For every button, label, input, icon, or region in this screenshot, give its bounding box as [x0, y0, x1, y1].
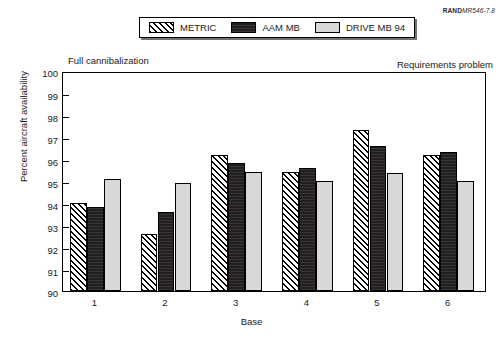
y-axis-tick-label: 100 [42, 68, 58, 79]
bar-metric-base-4 [282, 172, 299, 291]
bar-metric-base-2 [141, 234, 158, 291]
y-axis-tick: 94 [63, 205, 69, 206]
legend-swatch-drive-mb-94 [315, 22, 340, 33]
bar-aam-base-3 [228, 163, 245, 291]
y-axis-tick: 97 [63, 139, 69, 140]
plot-area: 90919293949596979899100 [62, 72, 486, 292]
x-axis-tick-label: 4 [304, 297, 309, 308]
bar-metric-base-3 [211, 155, 228, 291]
y-axis-tick: 96 [63, 161, 69, 162]
y-axis-tick-label: 95 [47, 179, 58, 190]
legend-label-aam-mb: AAM MB [262, 22, 299, 33]
legend-item-aam-mb: AAM MB [231, 22, 299, 33]
legend-swatch-aam-mb [231, 22, 256, 33]
bar-drive-base-1 [104, 179, 121, 291]
bar-aam-base-1 [87, 207, 104, 291]
y-axis-tick: 93 [63, 227, 69, 228]
y-axis-tick: 98 [63, 117, 69, 118]
plot-inner: 90919293949596979899100 [63, 73, 485, 291]
y-axis-tick-label: 93 [47, 223, 58, 234]
x-axis-tick-label: 2 [162, 297, 167, 308]
legend-item-drive-mb-94: DRIVE MB 94 [315, 22, 405, 33]
bar-aam-base-2 [158, 212, 175, 291]
source-prefix: RAND [443, 7, 462, 14]
y-axis-tick-label: 98 [47, 113, 58, 124]
y-axis-tick-label: 97 [47, 135, 58, 146]
bar-drive-base-2 [175, 183, 192, 291]
bar-drive-base-3 [245, 172, 262, 291]
x-axis-tick-label: 1 [92, 297, 97, 308]
bar-drive-base-5 [387, 173, 404, 291]
x-axis-tick-label: 3 [233, 297, 238, 308]
legend-label-drive-mb-94: DRIVE MB 94 [346, 22, 405, 33]
source-identifier: RANDMR546-7.8 [443, 7, 495, 14]
y-axis-title: Percent aircraft availability [18, 71, 29, 182]
legend-item-metric: METRIC [149, 22, 216, 33]
y-axis-tick: 95 [63, 183, 69, 184]
bar-aam-base-5 [370, 146, 387, 291]
y-axis-tick-label: 99 [47, 91, 58, 102]
legend-label-metric: METRIC [180, 22, 216, 33]
bar-drive-base-4 [316, 181, 333, 291]
y-axis-tick: 92 [63, 249, 69, 250]
y-axis-tick: 91 [63, 271, 69, 272]
y-axis-tick-label: 92 [47, 245, 58, 256]
x-axis-tick-label: 5 [374, 297, 379, 308]
bar-metric-base-5 [353, 130, 370, 291]
y-axis-tick: 99 [63, 95, 69, 96]
y-axis-tick-label: 91 [47, 267, 58, 278]
y-axis-tick-label: 96 [47, 157, 58, 168]
x-axis-tick-label: 6 [445, 297, 450, 308]
y-axis-tick-label: 90 [47, 288, 58, 299]
chart-legend: METRIC AAM MB DRIVE MB 94 [139, 17, 415, 38]
legend-swatch-metric [149, 22, 174, 33]
x-axis-title: Base [0, 316, 503, 327]
annotation-requirements-problem: Requirements problem [397, 59, 493, 70]
bar-metric-base-6 [423, 155, 440, 291]
annotation-full-cannibalization: Full cannibalization [68, 55, 149, 66]
bar-drive-base-6 [457, 181, 474, 291]
bar-aam-base-4 [299, 168, 316, 291]
y-axis: 90919293949596979899100 [63, 73, 485, 291]
source-number: MR546-7.8 [462, 7, 495, 14]
y-axis-tick-label: 94 [47, 201, 58, 212]
bar-aam-base-6 [440, 152, 457, 291]
bar-metric-base-1 [70, 203, 87, 291]
